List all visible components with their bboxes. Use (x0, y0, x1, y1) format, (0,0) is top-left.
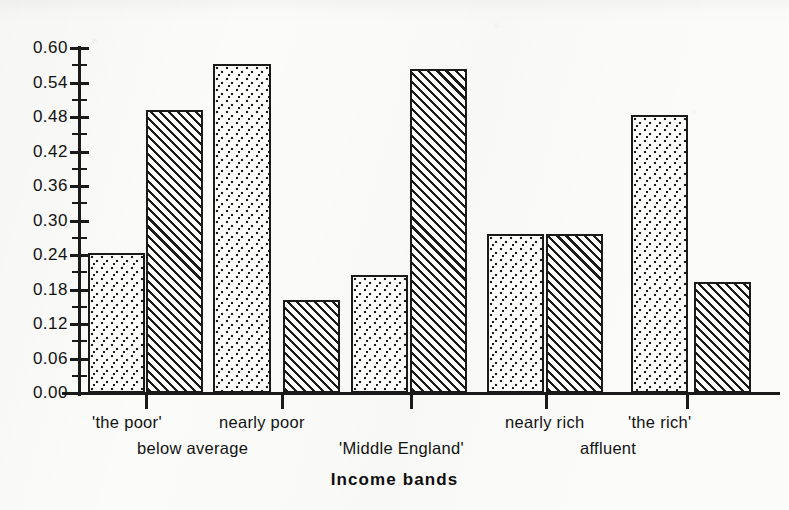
y-axis-tick-major (70, 185, 89, 188)
y-axis-tick-label: 0.30 (0, 212, 68, 229)
bar-dotted (351, 275, 408, 393)
bar-dotted (213, 64, 271, 393)
y-axis-tick-label: 0.54 (0, 74, 68, 91)
y-axis-tick-minor (72, 202, 87, 204)
y-axis-tick-minor (72, 99, 87, 101)
chart-page: 0.000.060.120.180.240.300.360.420.480.54… (0, 0, 789, 510)
y-axis-tick-major (70, 82, 89, 85)
y-axis-tick-label: 0.24 (0, 246, 68, 263)
y-axis-tick-major (70, 358, 89, 361)
y-axis-tick-minor (72, 375, 87, 377)
y-axis-tick-major (70, 47, 89, 50)
x-axis-group-label: below average (137, 440, 248, 457)
y-axis-tick-major (70, 151, 89, 154)
y-axis-tick-major (70, 254, 89, 257)
y-axis-tick-minor (72, 306, 87, 308)
bar-hatched (694, 282, 751, 393)
x-axis-group-label: 'Middle England' (339, 440, 464, 457)
y-axis-tick-major (70, 116, 89, 119)
x-axis-tick (281, 392, 284, 409)
y-axis-tick-minor (72, 64, 87, 66)
x-axis-label: nearly rich (505, 414, 584, 431)
y-axis-tick-major (70, 392, 89, 395)
y-axis-tick-label: 0.60 (0, 39, 68, 56)
x-axis-tick (686, 392, 689, 409)
x-axis-title: Income bands (0, 470, 789, 490)
x-axis-group-label: affluent (580, 440, 636, 457)
bar-dotted (487, 234, 544, 393)
y-axis-tick-label: 0.18 (0, 281, 68, 298)
bar-chart-plot: 0.000.060.120.180.240.300.360.420.480.54… (0, 0, 789, 510)
y-axis-tick-label: 0.48 (0, 108, 68, 125)
y-axis-tick-minor (72, 340, 87, 342)
y-axis-tick-label: 0.00 (0, 384, 68, 401)
y-axis-tick-minor (72, 237, 87, 239)
x-axis-label: nearly poor (219, 414, 305, 431)
bar-dotted (631, 115, 688, 393)
y-axis-tick-major (70, 220, 89, 223)
x-axis-label: 'the poor' (92, 414, 162, 431)
bar-hatched (146, 110, 203, 393)
y-axis-tick-minor (72, 168, 87, 170)
y-axis-tick-minor (72, 133, 87, 135)
y-axis-tick-major (70, 289, 89, 292)
x-axis-tick (410, 392, 413, 409)
y-axis-tick-label: 0.12 (0, 315, 68, 332)
bar-hatched (546, 234, 603, 393)
x-axis-label: 'the rich' (628, 414, 691, 431)
y-axis-tick-label: 0.42 (0, 143, 68, 160)
y-axis-tick-label: 0.06 (0, 350, 68, 367)
bar-dotted (88, 253, 145, 393)
x-axis-tick (145, 392, 148, 409)
y-axis-tick-minor (72, 271, 87, 273)
bar-hatched (410, 69, 467, 393)
bar-hatched (283, 300, 340, 393)
y-axis-tick-label: 0.36 (0, 177, 68, 194)
y-axis-tick-major (70, 323, 89, 326)
x-axis-tick (545, 392, 548, 409)
